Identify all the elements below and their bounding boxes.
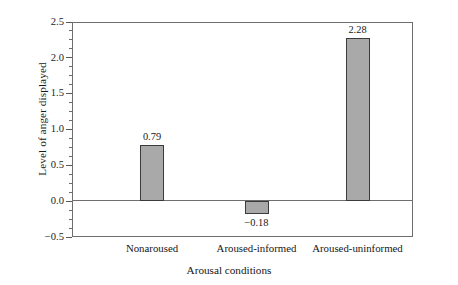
y-tick-minor (69, 39, 73, 40)
y-tick-label: 2.5 (24, 17, 64, 28)
y-tick-label: 0.0 (24, 196, 64, 207)
y-tick-major (66, 201, 72, 202)
y-tick-major (66, 165, 72, 166)
y-tick-major (66, 129, 72, 130)
category-label: Aroused-uninformed (283, 243, 433, 254)
bar (346, 38, 370, 201)
bar-chart-figure: Level of anger displayed 2.52.01.51.00.5… (0, 0, 458, 285)
x-axis-title: Arousal conditions (0, 265, 458, 276)
y-tick-minor (69, 174, 73, 175)
y-tick-minor (69, 147, 73, 148)
y-tick-minor (69, 30, 73, 31)
bar-value-label: 0.79 (117, 132, 187, 142)
y-tick-label: 1.5 (24, 88, 64, 99)
y-tick-minor (69, 84, 73, 85)
y-tick-minor (69, 66, 73, 67)
y-tick-label: 1.0 (24, 124, 64, 135)
y-tick-minor (69, 102, 73, 103)
y-tick-major (66, 237, 72, 238)
y-tick-minor (69, 156, 73, 157)
y-tick-minor (69, 192, 73, 193)
bar (140, 145, 164, 202)
y-tick-major (66, 93, 72, 94)
bar-value-label: −0.18 (222, 218, 292, 228)
y-tick-minor (69, 48, 73, 49)
y-tick-minor (69, 183, 73, 184)
y-tick-minor (69, 75, 73, 76)
y-tick-minor (69, 228, 73, 229)
y-tick-label: −0.5 (24, 232, 64, 243)
bar-value-label: 2.28 (323, 25, 393, 35)
y-tick-minor (69, 120, 73, 121)
y-tick-minor (69, 138, 73, 139)
y-tick-label: 2.0 (24, 53, 64, 64)
y-tick-major (66, 22, 72, 23)
y-tick-major (66, 57, 72, 58)
y-tick-minor (69, 219, 73, 220)
bar (245, 201, 269, 214)
y-tick-minor (69, 111, 73, 112)
y-tick-label: 0.5 (24, 160, 64, 171)
y-tick-minor (69, 210, 73, 211)
